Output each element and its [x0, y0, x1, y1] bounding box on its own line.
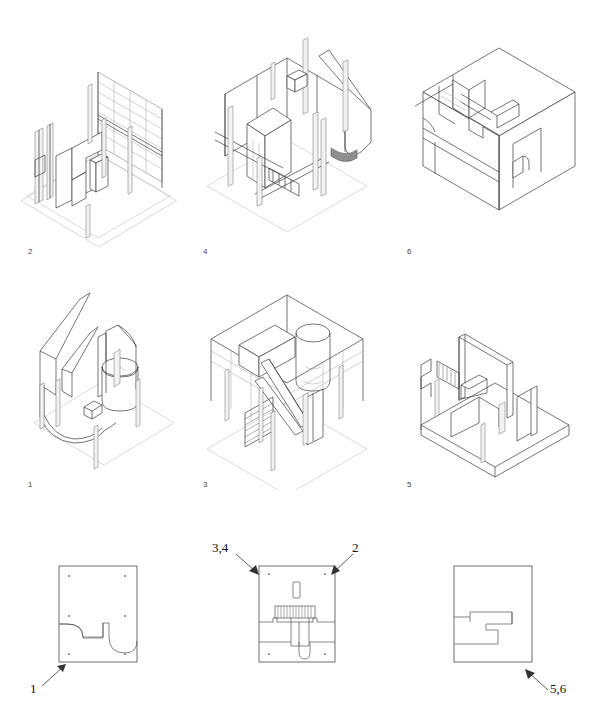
axo-1-drawing	[10, 285, 190, 490]
callout-arrow-1	[40, 660, 72, 688]
post	[435, 379, 439, 417]
square-detail	[84, 401, 102, 419]
floor-plan-left	[45, 560, 165, 670]
drawing-sheet: 2	[0, 0, 595, 727]
floor-plate	[421, 383, 569, 477]
axo-2-drawing	[10, 20, 190, 260]
figure-label-6: 6	[407, 248, 412, 256]
cylindrical-core	[296, 324, 330, 391]
callout-arrow-34	[234, 552, 264, 578]
axonometric-figure-6: 6	[395, 20, 590, 260]
figure-label-5: 5	[407, 481, 412, 489]
plan-right-drawing	[440, 560, 560, 670]
callout-arrow-56	[522, 668, 552, 694]
figure-label-1: 1	[28, 481, 33, 489]
right-partition	[303, 389, 323, 445]
axonometric-figure-2: 2	[10, 20, 190, 260]
floor-plan-right	[440, 560, 560, 670]
axonometric-figure-3: 3	[195, 285, 380, 490]
axo-4-drawing	[195, 20, 380, 260]
post	[481, 423, 485, 463]
axonometric-figure-5: 5	[395, 285, 590, 490]
axonometric-figure-4: 4	[195, 20, 380, 260]
axo-5-drawing	[395, 285, 590, 490]
figure-label-4: 4	[203, 248, 208, 256]
callout-label-34: 3,4	[212, 541, 228, 554]
axonometric-figure-1: 1	[10, 285, 190, 490]
plan-left-drawing	[45, 560, 165, 670]
figure-label-2: 2	[28, 248, 33, 256]
wall-fins	[35, 123, 53, 204]
callout-label-56: 5,6	[550, 682, 566, 695]
cylinder-volume	[102, 325, 138, 411]
axo-3-drawing	[195, 285, 380, 490]
callout-arrow-2	[326, 552, 356, 578]
zigzag-wall	[421, 359, 431, 430]
figure-label-3: 3	[203, 481, 208, 489]
callout-label-1: 1	[30, 682, 37, 695]
folded-wall	[40, 293, 106, 397]
axo-6-drawing	[395, 20, 590, 260]
stair-hatch	[437, 361, 459, 389]
